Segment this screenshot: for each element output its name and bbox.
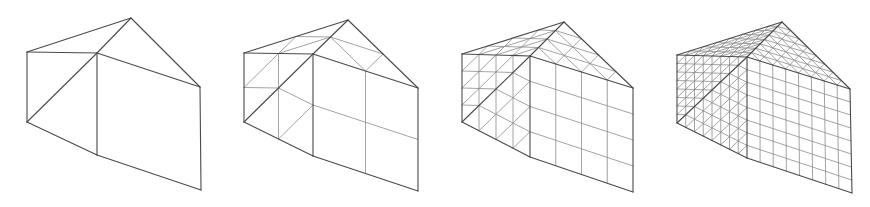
mesh-boundary-edge <box>564 22 633 88</box>
mesh-interior-edge <box>837 81 841 85</box>
mesh-boundary-edge <box>97 155 201 190</box>
mesh-interior-edge <box>743 34 769 35</box>
mesh-boundary-edge <box>131 18 200 87</box>
mesh-interior-edge <box>479 106 530 132</box>
mesh-boundary-edge <box>200 87 201 190</box>
mesh-boundary-edge <box>348 20 418 88</box>
mesh-interior-edge <box>244 54 279 88</box>
mesh-interior-edge <box>366 54 384 71</box>
mesh-interior-edge <box>513 73 530 82</box>
mesh-interior-edge <box>738 65 747 69</box>
mesh-interior-edge <box>721 120 747 145</box>
mesh-boundary-edge <box>27 122 97 155</box>
mesh-refinement-diagram <box>0 0 870 207</box>
mesh-boundary-edge <box>27 18 131 52</box>
mesh-interior-edge <box>703 95 747 136</box>
mesh-interior-edge <box>279 105 314 139</box>
mesh-interior-edge <box>607 72 616 81</box>
mesh-interior-edge <box>677 64 738 66</box>
mesh-interior-edge <box>721 82 747 95</box>
mesh-boundary-edge <box>27 53 97 122</box>
mesh-interior-edge <box>513 132 530 149</box>
mesh-interior-edge <box>462 105 479 106</box>
mesh-level-3 <box>462 22 633 192</box>
mesh-boundary-edge <box>27 52 97 53</box>
mesh-canvas <box>0 0 870 207</box>
mesh-interior-edge <box>296 37 331 38</box>
mesh-boundary-edge <box>244 53 313 54</box>
mesh-interior-edge <box>677 55 686 63</box>
mesh-interior-edge <box>331 37 384 54</box>
mesh-interior-edge <box>738 145 747 153</box>
mesh-interior-edge <box>686 70 747 128</box>
mesh-interior-edge <box>279 88 314 105</box>
mesh-level-4 <box>677 22 852 193</box>
mesh-interior-edge <box>462 55 479 72</box>
mesh-interior-edge <box>686 115 747 146</box>
mesh-level-2 <box>244 20 418 191</box>
mesh-interior-edge <box>488 46 539 48</box>
mesh-interior-edge <box>539 30 556 31</box>
mesh-interior-edge <box>786 47 808 69</box>
mesh-level-1 <box>27 18 201 190</box>
mesh-interior-edge <box>677 98 703 99</box>
mesh-interior-edge <box>677 81 721 82</box>
mesh-boundary-edge <box>97 53 200 87</box>
mesh-interior-edge <box>244 88 279 89</box>
mesh-interior-edge <box>462 71 513 73</box>
